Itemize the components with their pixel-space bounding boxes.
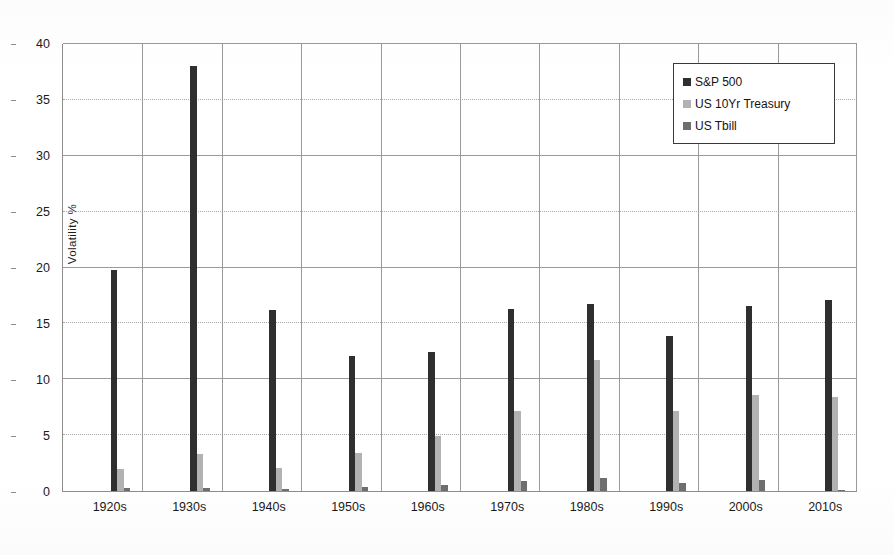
x-axis-ticks: 1920s1930s1940s1950s1960s1970s1980s1990s… [62,500,857,514]
x-tick-label-1950s: 1950s [301,500,381,514]
bar-1970s-series-1 [514,411,521,491]
x-tick-label-1920s: 1920s [62,500,142,514]
y-tick-label-30: 30 [16,149,50,163]
bar-1930s-series-0 [190,66,197,491]
y-tick-mark-35 [11,100,16,101]
bar-1930s-series-1 [197,454,204,491]
legend-label-sp500: S&P 500 [695,75,742,89]
y-tick-label-25: 25 [16,205,50,219]
bar-group-1980s [539,44,618,491]
x-tick-label-1990s: 1990s [619,500,699,514]
x-tick-label-2000s: 2000s [698,500,778,514]
y-tick-mark-20 [11,268,16,269]
legend-item-sp500: S&P 500 [683,75,825,89]
x-tick-label-1980s: 1980s [539,500,619,514]
bar-1920s-series-2 [124,488,131,491]
volatility-bar-chart: Volatility % 4035302520151050 1920s1930s… [0,0,894,555]
y-tick-label-15: 15 [16,317,50,331]
y-tick-label-5: 5 [16,429,50,443]
bar-2000s-series-2 [759,480,766,491]
bar-1950s-series-2 [362,487,369,491]
bar-1940s-series-2 [282,489,289,491]
bar-group-1930s [142,44,221,491]
bar-1950s-series-1 [355,453,362,491]
y-tick-label-35: 35 [16,93,50,107]
legend-item-tbill: US Tbill [683,119,825,133]
y-tick-mark-30 [11,156,16,157]
legend-label-tbill: US Tbill [695,119,737,133]
y-tick-mark-10 [11,380,16,381]
y-tick-mark-25 [11,212,16,213]
y-tick-label-20: 20 [16,261,50,275]
bar-1980s-series-1 [594,360,601,491]
bar-group-1920s [63,44,142,491]
bar-1930s-series-2 [203,488,210,491]
bar-2000s-series-1 [752,395,759,491]
x-tick-label-2010s: 2010s [778,500,858,514]
legend-swatch-tbill-icon [683,122,691,130]
bar-1970s-series-2 [521,481,528,491]
y-tick-mark-0 [11,492,16,493]
bar-1940s-series-1 [276,468,283,491]
chart-legend: S&P 500 US 10Yr Treasury US Tbill [673,63,835,144]
y-tick-mark-5 [11,436,16,437]
bar-group-1940s [222,44,301,491]
bar-1940s-series-0 [269,310,276,491]
x-tick-label-1960s: 1960s [380,500,460,514]
bar-1980s-series-2 [600,478,607,491]
bar-group-1950s [301,44,380,491]
bar-group-1960s [381,44,460,491]
legend-item-treasury: US 10Yr Treasury [683,97,825,111]
bar-2010s-series-1 [832,397,839,491]
x-tick-label-1940s: 1940s [221,500,301,514]
bar-1990s-series-2 [679,483,686,491]
y-tick-label-40: 40 [16,37,50,51]
bar-1960s-series-1 [435,436,442,491]
bar-1990s-series-1 [673,411,680,491]
y-tick-label-0: 0 [16,485,50,499]
legend-label-treasury: US 10Yr Treasury [695,97,790,111]
y-tick-mark-15 [11,324,16,325]
bar-1960s-series-2 [441,485,448,491]
bar-group-1970s [460,44,539,491]
y-tick-label-10: 10 [16,373,50,387]
bar-2010s-series-2 [838,490,845,491]
legend-swatch-treasury-icon [683,100,691,108]
legend-swatch-sp500-icon [683,78,691,86]
bar-1920s-series-0 [111,270,118,491]
x-tick-label-1930s: 1930s [142,500,222,514]
x-tick-label-1970s: 1970s [460,500,540,514]
y-tick-mark-40 [11,44,16,45]
